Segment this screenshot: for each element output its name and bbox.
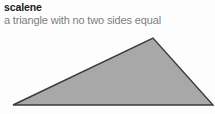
triangle-shape [13, 38, 213, 105]
glossary-entry: scalene a triangle with no two sides equ… [0, 0, 215, 114]
headword: scalene [4, 1, 204, 14]
entry-text-block: scalene a triangle with no two sides equ… [4, 1, 204, 27]
definition-text: a triangle with no two sides equal [4, 14, 182, 27]
